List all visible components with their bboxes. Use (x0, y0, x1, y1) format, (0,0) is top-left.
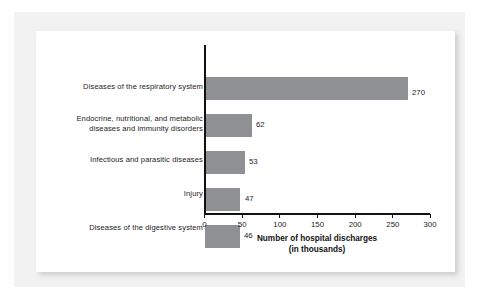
x-tick-label-50: 50 (238, 220, 247, 229)
category-label-line: diseases and immunity disorders (43, 124, 203, 134)
category-label-respiratory: Diseases of the respiratory system (43, 82, 203, 92)
category-label-line: Infectious and parasitic diseases (43, 155, 203, 165)
x-axis-title-line: (in thousands) (204, 244, 430, 255)
x-tick-250 (392, 214, 393, 218)
bar-injury[interactable] (205, 188, 240, 211)
chart-card: Diseases of the respiratory system Endoc… (36, 31, 455, 272)
x-tick-150 (317, 214, 318, 218)
bar-value-respiratory: 270 (412, 88, 425, 97)
x-tick-label-100: 100 (273, 220, 286, 229)
x-tick-label-250: 250 (386, 220, 399, 229)
x-tick-label-0: 0 (202, 220, 206, 229)
x-tick-50 (242, 214, 243, 218)
category-label-line: Diseases of the respiratory system (43, 82, 203, 92)
category-label-line: Diseases of the digestive system (43, 223, 203, 233)
bar-value-infectious: 53 (249, 157, 258, 166)
x-tick-label-300: 300 (423, 220, 436, 229)
y-axis-line (204, 45, 206, 214)
bar-value-endocrine: 62 (256, 120, 265, 129)
bar-endocrine[interactable] (205, 114, 252, 137)
x-tick-label-150: 150 (311, 220, 324, 229)
chart-figure: Diseases of the respiratory system Endoc… (0, 0, 479, 299)
category-label-line: Injury (43, 189, 203, 199)
category-label-injury: Injury (43, 189, 203, 199)
bar-value-injury: 47 (245, 194, 254, 203)
x-axis-title: Number of hospital discharges (in thousa… (204, 233, 430, 255)
x-tick-300 (430, 214, 431, 218)
x-tick-200 (355, 214, 356, 218)
category-label-line: Endocrine, nutritional, and metabolic (43, 114, 203, 124)
bar-infectious[interactable] (205, 151, 245, 174)
x-tick-100 (279, 214, 280, 218)
category-label-digestive: Diseases of the digestive system (43, 223, 203, 233)
x-tick-0 (204, 214, 205, 218)
plot-area: Diseases of the respiratory system Endoc… (36, 31, 455, 272)
x-axis-title-line: Number of hospital discharges (204, 233, 430, 244)
x-tick-label-200: 200 (349, 220, 362, 229)
category-label-infectious: Infectious and parasitic diseases (43, 155, 203, 165)
bar-respiratory[interactable] (205, 77, 408, 100)
category-label-endocrine: Endocrine, nutritional, and metabolic di… (43, 114, 203, 133)
